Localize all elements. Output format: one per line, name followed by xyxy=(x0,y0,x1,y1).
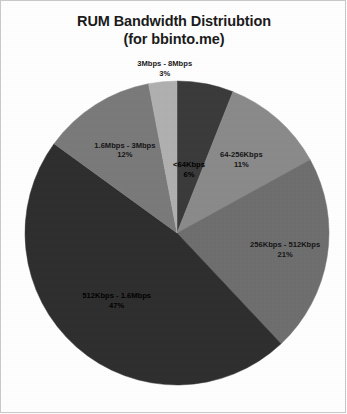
pie-chart: <64Kbps6%64-256Kbps11%256Kbps - 512Kbps2… xyxy=(1,1,347,414)
pie-slice-label-name: 3Mbps - 8Mbps xyxy=(137,59,192,68)
pie-slice-group xyxy=(25,81,329,385)
pie-slice-label-percent: 3% xyxy=(137,69,192,79)
pie-slice-callout-label: 3Mbps - 8Mbps3% xyxy=(137,59,192,79)
